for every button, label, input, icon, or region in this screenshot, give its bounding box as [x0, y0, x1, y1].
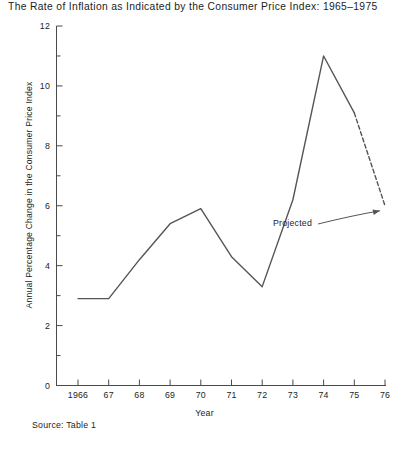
y-tick-label: 6: [45, 201, 50, 211]
x-tick-label: 71: [226, 390, 236, 400]
y-tick-label: 10: [40, 81, 50, 91]
y-tick-label: 2: [45, 321, 50, 331]
plot-area: 024681012 196667686970717273747576 Proje…: [0, 0, 409, 449]
x-tick-label: 76: [380, 390, 390, 400]
x-tick-label: 1966: [68, 390, 88, 400]
y-tick-label: 8: [45, 141, 50, 151]
x-tick-label: 68: [134, 390, 144, 400]
projected-label: Projected: [273, 218, 312, 228]
y-axis-tick-labels: 024681012: [40, 21, 50, 391]
y-tick-label: 4: [45, 261, 50, 271]
y-tick-label: 0: [45, 381, 50, 391]
series-line-projected: [354, 113, 385, 206]
projected-arrowhead: [373, 209, 380, 214]
projected-leader-line: [318, 211, 380, 224]
x-tick-label: 74: [319, 390, 329, 400]
y-axis-ticks: [57, 26, 63, 386]
y-tick-label: 12: [40, 21, 50, 31]
x-axis-ticks: [78, 380, 385, 386]
x-tick-label: 70: [196, 390, 206, 400]
x-tick-label: 73: [288, 390, 298, 400]
x-axis-tick-labels: 196667686970717273747576: [68, 390, 390, 400]
inflation-line-chart-figure: The Rate of Inflation as Indicated by th…: [0, 0, 409, 449]
x-tick-label: 67: [104, 390, 114, 400]
x-tick-label: 72: [257, 390, 267, 400]
x-tick-label: 69: [165, 390, 175, 400]
series-line-actual: [78, 56, 354, 299]
x-tick-label: 75: [349, 390, 359, 400]
